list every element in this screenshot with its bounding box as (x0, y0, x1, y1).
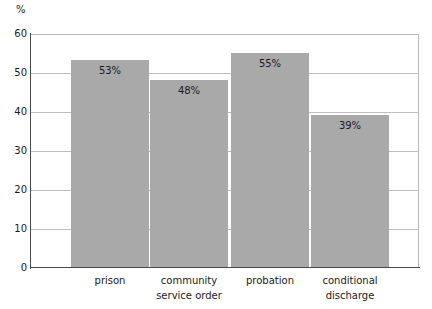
bar-value-community-service-order: 48% (150, 85, 228, 96)
x-label-conditional-discharge-line2: discharge (311, 288, 389, 303)
bar-probation[interactable]: 55% (231, 53, 309, 267)
bar-prison[interactable]: 53% (71, 60, 149, 267)
bar-value-probation: 55% (231, 58, 309, 69)
bar-chart: % 60 50 40 30 20 10 0 53% 48% 55% 39% (0, 0, 432, 309)
bar-conditional-discharge[interactable]: 39% (311, 115, 389, 267)
x-label-community-service-order-line2: service order (150, 288, 228, 303)
bar-community-service-order[interactable]: 48% (150, 80, 228, 267)
bar-value-prison: 53% (71, 65, 149, 76)
bar-value-conditional-discharge: 39% (311, 120, 389, 131)
x-label-prison-line1: prison (71, 273, 149, 288)
x-label-community-service-order-line1: community (150, 273, 228, 288)
x-label-community-service-order: community service order (150, 273, 228, 303)
x-label-probation-line1: probation (231, 273, 309, 288)
bars-layer: 53% 48% 55% 39% (0, 0, 432, 309)
x-label-conditional-discharge-line1: conditional (311, 273, 389, 288)
x-label-probation: probation (231, 273, 309, 288)
x-label-prison: prison (71, 273, 149, 288)
x-label-conditional-discharge: conditional discharge (311, 273, 389, 303)
